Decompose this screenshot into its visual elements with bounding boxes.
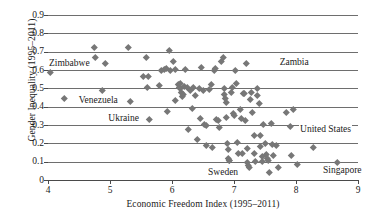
data-point [192, 92, 198, 98]
data-point [234, 139, 240, 145]
y-axis-tick-label: 0.3 [18, 120, 44, 130]
data-point [143, 54, 149, 60]
data-point [243, 60, 249, 66]
data-point [225, 146, 231, 152]
data-point [256, 100, 262, 106]
point-label-united-states: United States [299, 125, 352, 135]
x-axis-tick-mark [110, 180, 111, 184]
data-point [145, 73, 151, 79]
x-axis-tick-label: 6 [160, 185, 184, 195]
y-axis-tick-label: 0.2 [18, 138, 44, 148]
y-axis-tick-mark [44, 33, 48, 34]
y-axis-tick-mark [44, 125, 48, 126]
y-axis-title: Gender Inequality (1995–2011) [27, 0, 37, 160]
y-axis-tick-mark [44, 52, 48, 53]
x-axis-tick-label: 7 [222, 185, 246, 195]
data-point [194, 136, 200, 142]
data-point [273, 142, 279, 148]
data-point [170, 58, 176, 64]
data-point [102, 60, 108, 66]
gridline [48, 162, 358, 163]
data-point [223, 99, 229, 105]
data-point [223, 114, 229, 120]
x-axis-tick-label: 5 [98, 185, 122, 195]
data-point [146, 116, 152, 122]
x-axis-tick-mark [234, 180, 235, 184]
data-point [144, 84, 150, 90]
data-point [125, 44, 131, 50]
scatter-chart: Gender Inequality (1995–2011) Economic F… [0, 0, 368, 217]
gridline [48, 107, 358, 108]
data-point [251, 150, 257, 156]
data-point [287, 123, 293, 129]
data-point [92, 54, 98, 60]
x-axis-title: Economic Freedom Index (1995–2011) [48, 199, 358, 209]
data-point [249, 109, 255, 115]
data-point [257, 132, 263, 138]
data-point [61, 95, 67, 101]
data-point [288, 152, 294, 158]
data-point [310, 144, 316, 150]
y-axis-tick-mark [44, 15, 48, 16]
data-point [172, 97, 178, 103]
data-point [226, 158, 232, 164]
x-axis-tick-mark [48, 180, 49, 184]
gridline [48, 70, 358, 71]
data-point [283, 109, 289, 115]
x-axis-tick-label: 8 [284, 185, 308, 195]
y-axis-tick-label: 0.1 [18, 156, 44, 166]
data-point [241, 90, 247, 96]
point-label-zimbabwe: Zimbabwe [48, 59, 88, 69]
plot-area: 00.10.20.30.40.50.60.70.80.9456789Zimbab… [48, 15, 358, 180]
data-point [244, 145, 250, 151]
data-point [127, 98, 133, 104]
point-label-ukraine: Ukraine [48, 114, 140, 124]
data-point [182, 66, 188, 72]
x-axis-tick-mark [296, 180, 297, 184]
point-label-venezuela: Venezuela [78, 96, 119, 106]
point-label-sweden: Sweden [48, 168, 239, 178]
data-point [265, 158, 271, 164]
data-point [275, 164, 281, 170]
y-axis-tick-mark [44, 107, 48, 108]
x-axis-tick-mark [358, 180, 359, 184]
data-point [164, 108, 170, 114]
y-axis-tick-label: 0.7 [18, 46, 44, 56]
y-axis-tick-label: 0 [18, 175, 44, 185]
data-point [270, 152, 276, 158]
y-axis-tick-label: 0.6 [18, 65, 44, 75]
data-point [232, 67, 238, 73]
data-point [261, 121, 267, 127]
data-point [254, 85, 260, 91]
data-point [185, 126, 191, 132]
data-point [91, 44, 97, 50]
y-axis-tick-label: 0.8 [18, 28, 44, 38]
x-axis-line [48, 180, 358, 181]
y-axis-tick-label: 0.4 [18, 101, 44, 111]
point-label-singapore: Singapore [322, 166, 363, 176]
x-axis-tick-label: 4 [36, 185, 60, 195]
x-axis-tick-label: 9 [346, 185, 368, 195]
data-point [172, 66, 178, 72]
point-label-zambia: Zambia [279, 58, 310, 68]
data-point [247, 96, 253, 102]
y-axis-tick-mark [44, 88, 48, 89]
gridline [48, 33, 358, 34]
y-axis-tick-label: 0.5 [18, 83, 44, 93]
x-axis-tick-mark [172, 180, 173, 184]
data-point [266, 169, 272, 175]
y-axis-tick-mark [44, 143, 48, 144]
data-point [209, 144, 215, 150]
y-axis-tick-label: 0.9 [18, 10, 44, 20]
data-point [254, 92, 260, 98]
data-point [242, 117, 248, 123]
gridline [48, 15, 358, 16]
gridline [48, 52, 358, 53]
y-axis-tick-mark [44, 162, 48, 163]
